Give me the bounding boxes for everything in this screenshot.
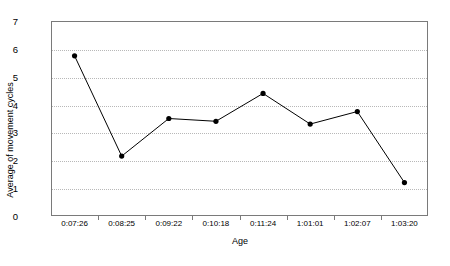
x-axis-tick-mark <box>381 216 382 220</box>
x-axis-tick-label: 1:03:20 <box>391 219 418 228</box>
y-axis-tick-label: 5 <box>0 71 18 82</box>
data-point-marker <box>119 154 124 159</box>
data-point-marker <box>355 109 360 114</box>
y-axis-tick-label: 3 <box>0 127 18 138</box>
x-axis-tick-label: 0:10:18 <box>203 219 230 228</box>
data-point-marker <box>308 121 313 126</box>
data-point-marker <box>260 91 265 96</box>
y-axis-tick-label: 6 <box>0 43 18 54</box>
x-axis-tick-label: 0:08:25 <box>108 219 135 228</box>
series-markers <box>72 53 407 185</box>
x-axis-tick-mark <box>240 216 241 220</box>
x-axis-tick-mark <box>98 216 99 220</box>
data-point-marker <box>213 119 218 124</box>
x-axis-tick-label: 1:01:01 <box>297 219 324 228</box>
x-axis-title: Age <box>51 236 429 246</box>
x-axis-tick-label: 1:02:07 <box>344 219 371 228</box>
data-series-line <box>51 21 428 216</box>
y-axis-tick-label: 0 <box>0 211 18 222</box>
x-axis-tick-mark <box>287 216 288 220</box>
series-polyline <box>75 56 405 183</box>
y-axis-tick-label: 1 <box>0 183 18 194</box>
y-axis-tick-label: 4 <box>0 99 18 110</box>
x-axis-tick-mark <box>192 216 193 220</box>
x-axis-tick-mark <box>334 216 335 220</box>
y-axis-tick-label: 2 <box>0 155 18 166</box>
x-axis-tick-mark <box>145 216 146 220</box>
chart-figure: Average of movement cycles 01234567 0:07… <box>0 0 450 266</box>
x-axis-tick-label: 0:07:26 <box>61 219 88 228</box>
data-point-marker <box>402 180 407 185</box>
x-axis-tick-label: 0:09:22 <box>155 219 182 228</box>
data-point-marker <box>166 116 171 121</box>
x-axis-tick-label: 0:11:24 <box>250 219 276 228</box>
data-point-marker <box>72 53 77 58</box>
y-axis-tick-label: 7 <box>0 16 18 27</box>
